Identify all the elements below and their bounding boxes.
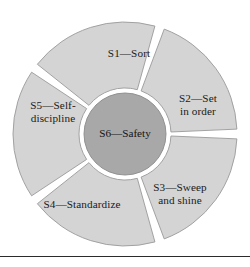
- segment-label-s5: S5—Self-discipline: [30, 98, 76, 123]
- segment-label-s4: S4—Standardize: [43, 198, 120, 210]
- bottom-separator-rule: [0, 256, 250, 257]
- five-s-wheel-diagram: S1—SortS2—Setin orderS3—Sweepand shineS4…: [0, 0, 250, 267]
- figure-root: S1—SortS2—Setin orderS3—Sweepand shineS4…: [0, 0, 250, 267]
- hub-label-s6: S6—Safety: [99, 127, 151, 139]
- segment-label-s3: S3—Sweepand shine: [153, 180, 207, 205]
- segment-label-s1: S1—Sort: [108, 47, 151, 59]
- segment-label-s2: S2—Setin order: [179, 91, 218, 116]
